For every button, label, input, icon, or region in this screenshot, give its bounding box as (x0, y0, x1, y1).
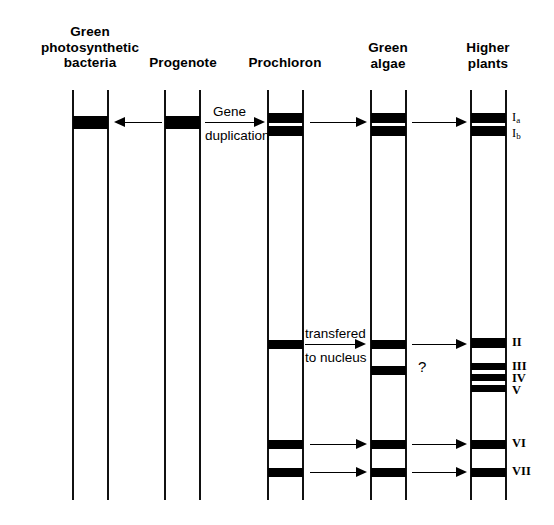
band-label-label-VI: VI (512, 437, 526, 450)
band-label-label-V: V (512, 384, 521, 397)
band-hp-band-VII (471, 468, 506, 477)
band-hp-band-Ia (471, 113, 506, 123)
band-prc-band-Ia (268, 113, 303, 123)
band-label-label-Ia: Ia (512, 111, 520, 125)
arrow-head (456, 117, 467, 127)
arrow-line (123, 122, 162, 123)
arrow-line (310, 444, 358, 445)
arrow-head (114, 117, 125, 127)
band-prc-band-II (268, 340, 303, 349)
lane-green-photosynthetic-bacteria (72, 90, 109, 500)
gel-diagram-figure: Green photosynthetic bacteriaProgenotePr… (0, 0, 554, 525)
annotation-question-mark: ? (418, 358, 426, 375)
band-label-text: V (512, 383, 521, 397)
arrow-line (305, 344, 357, 345)
annotation-transfered-top: transfered (305, 326, 366, 341)
column-header-progenote: Progenote (128, 55, 238, 71)
band-ga-band-VI (371, 440, 406, 449)
band-prc-band-Ib (268, 126, 303, 136)
band-hp-band-VI (471, 440, 506, 449)
arrow-head (456, 467, 467, 477)
band-prc-band-VI (268, 440, 303, 449)
lane-higher-plants (470, 90, 507, 500)
band-label-text: II (512, 335, 522, 349)
band-hp-band-IV (471, 374, 506, 381)
arrow-line (412, 444, 458, 445)
arrow-head (356, 117, 367, 127)
band-label-subscript: a (516, 115, 520, 125)
arrow-line (205, 122, 256, 123)
band-label-text: VII (512, 464, 531, 478)
band-ga-band-Ib (371, 126, 406, 136)
band-ga-band-II (371, 340, 406, 349)
band-ga-band-VII (371, 468, 406, 477)
band-hp-band-V (471, 385, 506, 392)
band-label-label-VII: VII (512, 465, 531, 478)
lane-green-algae (370, 90, 407, 500)
band-pro-band-1 (165, 116, 200, 129)
arrow-head (356, 467, 367, 477)
annotation-gene-duplication-bottom: duplication (205, 128, 270, 143)
annotation-gene-duplication-top: Gene (213, 104, 246, 119)
arrow-line (310, 122, 358, 123)
band-hp-band-III (471, 363, 506, 370)
arrow-line (412, 344, 458, 345)
arrow-line (310, 472, 358, 473)
band-label-text: VI (512, 436, 526, 450)
lane-prochloron (267, 90, 304, 500)
arrow-line (412, 122, 458, 123)
band-ga-band-Ia (371, 113, 406, 123)
column-header-green-algae: Green algae (338, 40, 438, 71)
arrow-line (412, 472, 458, 473)
band-ga-band-q (371, 366, 406, 375)
band-prc-band-VII (268, 468, 303, 477)
band-gpb-band-1 (73, 116, 108, 129)
arrow-head (456, 439, 467, 449)
lane-progenote (164, 90, 201, 500)
band-label-label-Ib: Ib (512, 127, 521, 141)
arrow-head (356, 439, 367, 449)
band-label-subscript: b (516, 131, 521, 141)
arrow-head (254, 117, 265, 127)
annotation-transfered-bottom: to nucleus (305, 350, 367, 365)
band-hp-band-Ib (471, 126, 506, 136)
arrow-head (456, 339, 467, 349)
band-label-label-II: II (512, 336, 522, 349)
column-header-prochloron: Prochloron (226, 55, 344, 71)
column-header-higher-plants: Higher plants (438, 40, 538, 71)
band-hp-band-II (471, 338, 506, 348)
